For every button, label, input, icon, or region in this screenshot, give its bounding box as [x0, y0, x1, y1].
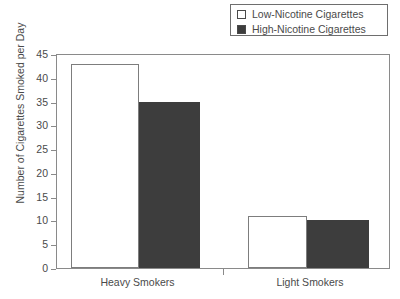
y-axis-title: Number of Cigarettes Smoked per Day [14, 6, 26, 221]
bar-heavy-smokers-high-nicotine-cigarettes [139, 102, 200, 268]
y-axis-tick-label: 25 [36, 143, 48, 155]
y-axis-tick-label: 30 [36, 119, 48, 131]
y-axis-tick-label: 45 [36, 48, 48, 60]
bar-light-smokers-low-nicotine-cigarettes [248, 216, 307, 268]
bar-chart: Low-Nicotine Cigarettes High-Nicotine Ci… [0, 0, 400, 299]
legend-entry-low-nicotine: Low-Nicotine Cigarettes [237, 8, 387, 21]
y-axis-tick-label: 40 [36, 72, 48, 84]
x-axis-label-heavy-smokers: Heavy Smokers [65, 276, 210, 289]
chart-legend: Low-Nicotine Cigarettes High-Nicotine Ci… [230, 4, 388, 36]
legend-swatch-high-nicotine [237, 25, 246, 34]
legend-label-high-nicotine: High-Nicotine Cigarettes [252, 24, 366, 35]
y-axis-tick-label: 5 [42, 238, 48, 250]
y-axis-tick-label: 0 [42, 262, 48, 274]
plot-area [56, 54, 390, 269]
x-axis-group-separator-tick [223, 269, 224, 275]
bar-heavy-smokers-low-nicotine-cigarettes [71, 64, 139, 268]
y-axis-tick-label: 10 [36, 214, 48, 226]
legend-swatch-low-nicotine [237, 10, 246, 19]
y-axis-tick-mark [51, 269, 56, 270]
bar-light-smokers-high-nicotine-cigarettes [307, 220, 369, 268]
y-axis-tick-label: 20 [36, 167, 48, 179]
legend-label-low-nicotine: Low-Nicotine Cigarettes [252, 9, 363, 20]
y-axis-tick-label: 15 [36, 191, 48, 203]
y-axis-tick-label: 35 [36, 96, 48, 108]
legend-entry-high-nicotine: High-Nicotine Cigarettes [237, 23, 387, 36]
x-axis-label-light-smokers: Light Smokers [240, 276, 380, 289]
